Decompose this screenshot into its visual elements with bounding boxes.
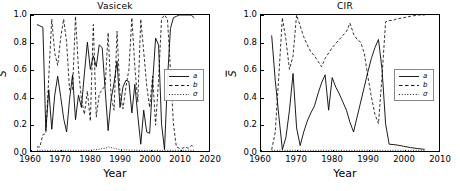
y-tick-label: 0.8 [13,37,27,47]
legend-label-a: a [423,73,427,80]
legend-label-a: a [193,73,197,80]
legend-label-b: b [423,82,427,89]
y-tick-label: 0.4 [243,92,257,102]
legend-item-b: b [168,81,200,89]
panel-title-cir: CIR [230,1,460,11]
legend-cir: a b σ [394,69,434,101]
legend-label-b: b [193,82,197,89]
panel-title-vasicek: Vasicek [0,1,230,11]
y-tick-label: 0.6 [13,64,27,74]
x-tick-label: 1990 [109,154,131,164]
figure-two-panel-line-charts: Vasicek S 0.0 0.2 0.4 0.6 0.8 1.0 [0,0,460,191]
series-line-sigma [37,147,194,150]
y-tick-label: 0.4 [13,92,27,102]
x-tick-label: 2010 [429,154,451,164]
x-tick-label: 1960 [249,154,271,164]
x-tick-labels-cir: 1960 1970 1980 1990 2000 2010 [260,154,440,168]
panel-cir: CIR S 0.0 0.2 0.4 0.6 0.8 1.0 [230,0,460,191]
panel-vasicek: Vasicek S 0.0 0.2 0.4 0.6 0.8 1.0 [0,0,230,191]
legend-item-b: b [398,81,430,89]
legend-swatch-dashed [168,82,190,89]
legend-item-sigma: σ [398,90,430,98]
legend-vasicek: a b σ [164,69,204,101]
y-tick-label: 1.0 [243,9,257,19]
plot-area-vasicek: a b σ [30,14,210,152]
x-tick-label: 1980 [321,154,343,164]
legend-label-sigma: σ [423,91,427,98]
y-tick-label: 0.6 [243,64,257,74]
legend-label-sigma: σ [193,91,197,98]
x-tick-label: 1970 [49,154,71,164]
x-tick-label: 2010 [169,154,191,164]
legend-item-sigma: σ [168,90,200,98]
x-tick-label: 2020 [199,154,221,164]
legend-swatch-dotted [168,91,190,98]
y-tick-label: 0.2 [13,119,27,129]
x-tick-label: 1990 [357,154,379,164]
plot-area-cir: a b σ [260,14,440,152]
x-axis-label-cir: Year [230,167,460,180]
legend-swatch-solid [168,73,190,80]
y-tick-labels-vasicek: 0.0 0.2 0.4 0.6 0.8 1.0 [0,14,27,152]
x-axis-label-vasicek: Year [0,167,230,180]
legend-item-a: a [168,72,200,80]
y-tick-label: 0.2 [243,119,257,129]
y-tick-labels-cir: 0.0 0.2 0.4 0.6 0.8 1.0 [230,14,257,152]
legend-item-a: a [398,72,430,80]
x-tick-labels-vasicek: 1960 1970 1980 1990 2000 2010 2020 [30,154,210,168]
y-tick-label: 1.0 [13,9,27,19]
legend-swatch-dotted [398,91,420,98]
x-tick-label: 1970 [285,154,307,164]
legend-swatch-dashed [398,82,420,89]
x-tick-label: 1980 [79,154,101,164]
legend-swatch-solid [398,73,420,80]
x-tick-label: 1960 [19,154,41,164]
x-tick-label: 2000 [139,154,161,164]
x-tick-label: 2000 [393,154,415,164]
y-tick-label: 0.8 [243,37,257,47]
